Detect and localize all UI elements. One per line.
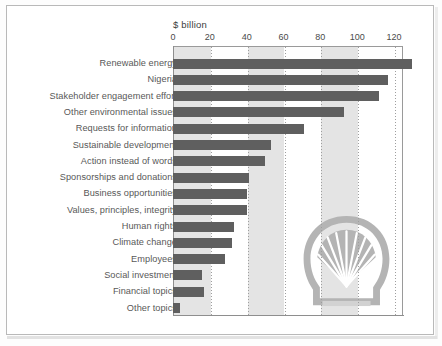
category-label: Other topics: [127, 303, 177, 313]
x-tick-label: 80: [315, 32, 325, 42]
bar: [173, 189, 247, 199]
category-label: Social investment: [104, 270, 177, 280]
bar: [173, 270, 202, 280]
category-label: Stakeholder engagement effort: [50, 91, 177, 101]
x-tick-label: 20: [205, 32, 215, 42]
bar-row: Renewable energy: [0, 56, 442, 72]
bar-row: Sustainable development: [0, 138, 442, 154]
bar-row: Other environmental issues: [0, 105, 442, 121]
bar: [173, 287, 204, 297]
bar-row: Stakeholder engagement effort: [0, 89, 442, 105]
bar-row: Financial topics: [0, 284, 442, 300]
category-label: Renewable energy: [100, 58, 177, 68]
x-axis-tick-labels: 020406080100120: [0, 32, 442, 44]
x-axis-title: $ billion: [173, 19, 207, 30]
bar-row: Other topics: [0, 301, 442, 317]
bar-row: Action instead of words: [0, 154, 442, 170]
bar: [173, 124, 304, 134]
x-tick-label: 120: [386, 32, 401, 42]
x-tick-label: 60: [278, 32, 288, 42]
x-tick-label: 100: [350, 32, 365, 42]
bar: [173, 205, 247, 215]
x-tick-label: 40: [242, 32, 252, 42]
bar-chart: $ billion 020406080100120: [0, 0, 442, 346]
bar-row: Sponsorships and donations: [0, 170, 442, 186]
bar: [173, 238, 232, 248]
bar: [173, 140, 271, 150]
category-label: Financial topics: [113, 286, 177, 296]
category-label: Sponsorships and donations: [60, 172, 177, 182]
category-label: Climate change: [112, 237, 177, 247]
bar-row: Human rights: [0, 219, 442, 235]
category-label: Other environmental issues: [64, 107, 177, 117]
bar: [173, 75, 388, 85]
bar-row: Business opportunities: [0, 186, 442, 202]
bar: [173, 59, 412, 69]
bar-row: Nigeria: [0, 72, 442, 88]
category-label: Sustainable development: [73, 140, 177, 150]
category-label: Requests for information: [76, 123, 177, 133]
category-label: Values, principles, integrity: [67, 205, 177, 215]
bar: [173, 156, 265, 166]
bar-row: Employees: [0, 252, 442, 268]
bar: [173, 222, 234, 232]
category-label: Business opportunities: [83, 188, 177, 198]
bar-row: Social investment: [0, 268, 442, 284]
figure-container: $ billion 020406080100120: [0, 0, 442, 346]
x-tick-label: 0: [170, 32, 175, 42]
bar-row: Climate change: [0, 235, 442, 251]
bar-row: Requests for information: [0, 121, 442, 137]
category-label: Employees: [131, 254, 177, 264]
bar: [173, 173, 249, 183]
bar-row: Values, principles, integrity: [0, 203, 442, 219]
bar: [173, 91, 379, 101]
category-label: Human rights: [122, 221, 177, 231]
bar-rows: Renewable energyNigeriaStakeholder engag…: [0, 46, 442, 316]
category-label: Action instead of words: [81, 156, 177, 166]
bar: [173, 107, 344, 117]
bar: [173, 303, 180, 313]
bar: [173, 254, 225, 264]
